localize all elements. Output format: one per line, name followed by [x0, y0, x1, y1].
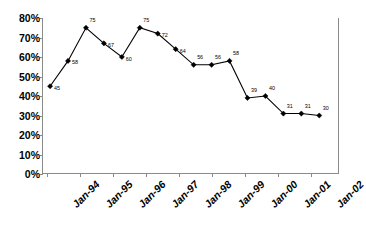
x-tick-label: Jan-94 — [70, 178, 102, 210]
data-point-label: 64 — [180, 48, 186, 54]
data-point-label: 40 — [269, 85, 275, 91]
x-tick-label: Jan-00 — [268, 178, 300, 210]
y-tick-label: 10% — [2, 150, 40, 160]
y-tick-label: 0% — [2, 169, 40, 179]
data-point-label: 39 — [251, 87, 257, 93]
data-point-label: 60 — [126, 56, 132, 62]
data-point-label: 45 — [54, 85, 60, 91]
y-axis: 80%70%60%50%40%30%20%10%0% — [0, 18, 40, 174]
x-tick-label: Jan-01 — [301, 178, 333, 210]
y-tick-label: 60% — [2, 52, 40, 62]
y-tick-label: 20% — [2, 130, 40, 140]
x-tick-label: Jan-96 — [136, 178, 168, 210]
y-tick-label: 50% — [2, 72, 40, 82]
x-tick-label: Jan-99 — [235, 178, 267, 210]
data-point-label: 56 — [215, 54, 221, 60]
data-point-label: 67 — [108, 42, 114, 48]
data-labels: 45587567607572645656583940313130 — [42, 18, 339, 174]
x-tick-label: Jan-97 — [169, 178, 201, 210]
data-point-label: 30 — [323, 105, 329, 111]
y-tick-label: 40% — [2, 91, 40, 101]
data-point-label: 58 — [72, 59, 78, 65]
data-point-label: 72 — [162, 32, 168, 38]
y-tick-label: 30% — [2, 111, 40, 121]
data-point-label: 56 — [197, 54, 203, 60]
x-tick-label: Jan-95 — [103, 178, 135, 210]
data-point-label: 31 — [305, 103, 311, 109]
y-tick-label: 80% — [2, 13, 40, 23]
x-tick-label: Jan-98 — [202, 178, 234, 210]
x-axis: Jan-94Jan-95Jan-96Jan-97Jan-98Jan-99Jan-… — [42, 174, 339, 234]
data-point-label: 75 — [143, 17, 149, 23]
data-point-label: 31 — [287, 103, 293, 109]
y-tick-label: 70% — [2, 33, 40, 43]
x-tick-label: Jan-02 — [334, 178, 366, 210]
data-point-label: 58 — [233, 50, 239, 56]
data-point-label: 75 — [89, 17, 95, 23]
